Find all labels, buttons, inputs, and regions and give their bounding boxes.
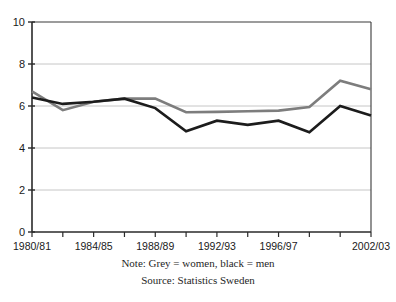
x-tick-label: 1988/89 — [136, 240, 174, 252]
x-tick-label: 1980/81 — [13, 240, 51, 252]
x-tick-label: 1984/85 — [75, 240, 113, 252]
y-tick-label: 2 — [19, 184, 25, 196]
x-tick-label: 1992/93 — [198, 240, 236, 252]
y-tick-label: 0 — [19, 226, 25, 238]
y-tick-label: 8 — [19, 58, 25, 70]
data-series — [32, 81, 371, 132]
figure: 0246810 1980/811984/851988/891992/931996… — [0, 0, 396, 302]
chart-note: Note: Grey = women, black = men — [0, 255, 396, 272]
caption-block: Note: Grey = women, black = men Source: … — [0, 255, 396, 289]
y-axis-tick-labels: 0246810 — [13, 16, 25, 238]
chart-source: Source: Statistics Sweden — [0, 272, 396, 289]
y-tick-label: 6 — [19, 100, 25, 112]
x-tick-label: 1996/97 — [260, 240, 298, 252]
x-tick-label: 2002/03 — [352, 240, 390, 252]
x-axis-tick-labels: 1980/811984/851988/891992/931996/972002/… — [13, 240, 390, 252]
y-tick-label: 10 — [13, 16, 25, 28]
y-tick-label: 4 — [19, 142, 25, 154]
series-line-men — [32, 98, 371, 133]
series-line-women — [32, 81, 371, 113]
